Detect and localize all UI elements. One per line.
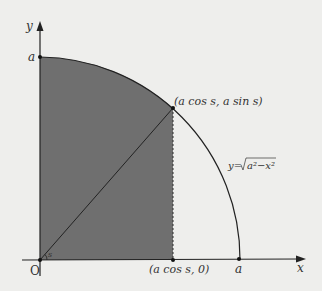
point-cos-on-x bbox=[171, 258, 175, 262]
quarter-circle-diagram: y x O a a s (a cos s, a sin s) (a cos s,… bbox=[0, 0, 322, 291]
origin-label: O bbox=[30, 264, 40, 278]
curve-equation-radicand: a²−x² bbox=[247, 160, 275, 171]
origin-point bbox=[38, 258, 42, 262]
point-a-x bbox=[237, 257, 241, 261]
point-a-y bbox=[38, 55, 42, 59]
y-axis-label: y bbox=[25, 19, 33, 33]
curve-equation-prefix: y= bbox=[227, 160, 242, 171]
point-on-curve-label: (a cos s, a sin s) bbox=[174, 95, 263, 108]
a-on-y-label: a bbox=[28, 50, 35, 64]
y-axis-arrow-icon bbox=[37, 21, 44, 31]
point-on-x-axis-label: (a cos s, 0) bbox=[149, 263, 209, 276]
angle-label: s bbox=[48, 250, 52, 259]
curve-equation: y= a²−x² bbox=[227, 158, 276, 171]
x-axis-label: x bbox=[297, 261, 304, 275]
shaded-region bbox=[40, 57, 173, 260]
a-on-x-label: a bbox=[235, 262, 242, 276]
